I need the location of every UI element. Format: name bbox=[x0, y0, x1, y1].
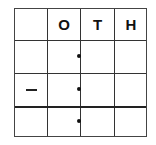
header-tenths: T bbox=[81, 9, 114, 40]
header-hundredths: H bbox=[115, 9, 147, 40]
answer-row-divider bbox=[15, 106, 146, 108]
decimal-point-icon bbox=[77, 119, 81, 123]
minus-sign-icon bbox=[26, 89, 37, 91]
decimal-point-icon bbox=[77, 54, 81, 58]
row-divider bbox=[15, 40, 146, 41]
header-ones: O bbox=[48, 9, 80, 40]
header-empty bbox=[15, 9, 47, 40]
row-divider bbox=[15, 73, 146, 74]
place-value-grid: O T H bbox=[14, 8, 147, 137]
decimal-point-icon bbox=[77, 87, 81, 91]
